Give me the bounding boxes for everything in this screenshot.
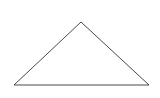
triangle-diagram [0,0,160,98]
diagram-canvas [0,0,160,98]
triangle-shape [14,22,149,85]
